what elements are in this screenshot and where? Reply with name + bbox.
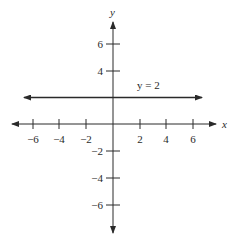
y-tick-label: −4 <box>91 172 103 184</box>
x-tick-label: 2 <box>137 133 143 145</box>
x-axis-label: x <box>221 118 227 130</box>
line-label: y = 2 <box>137 79 160 91</box>
y-axis-label: y <box>109 6 115 18</box>
x-tick-label: −4 <box>53 133 65 145</box>
x-tick-label: 6 <box>190 133 196 145</box>
coordinate-plane: y x y = 2 −6 −4 −2 2 4 6 6 4 −2 −4 −6 <box>0 0 235 241</box>
x-tick-label: 4 <box>163 133 169 145</box>
x-tick-label: −2 <box>80 133 92 145</box>
y-tick-label: −2 <box>91 145 103 157</box>
y-tick-label: 6 <box>98 38 104 50</box>
x-axis <box>12 119 216 129</box>
y-tick-label: −6 <box>91 199 103 211</box>
y-tick-label: 4 <box>98 65 104 77</box>
x-tick-label: −6 <box>27 133 39 145</box>
y-axis <box>106 22 120 233</box>
